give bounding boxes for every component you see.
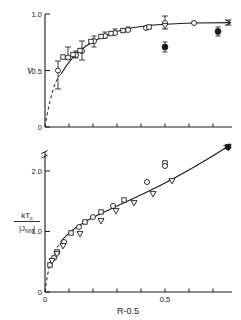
top-open-circle-markers (56, 21, 197, 74)
bottom-y-ticklabel-2.0: 2.0 (32, 167, 42, 176)
top-y-ticklabel-0.5: 0.5 (32, 67, 42, 76)
svg-text:kTc: kTc (21, 211, 33, 221)
top-ylabel-nu: ν (27, 63, 33, 77)
bottom-y-ticklabel-0: 0 (38, 288, 42, 297)
bottom-triangle-markers (49, 179, 175, 264)
top-filled-circle-markers (162, 29, 221, 50)
x-axis-title: R-0.5 (117, 306, 139, 316)
ylabel-denominator-sub: NN (25, 228, 33, 234)
bottom-open-markers (48, 161, 168, 267)
top-open-square-markers (61, 25, 151, 59)
bottom-panel: 2.0 1.0 0 0 0.5 R-0.5 kTc |JNN| (14, 144, 232, 316)
bottom-x-ticklabel-0: 0 (43, 295, 47, 304)
bottom-curve-endpoint-marker (225, 144, 231, 150)
bottom-fit-curve (62, 145, 230, 240)
top-y-ticklabel-1.0: 1.0 (32, 10, 42, 19)
top-dashed-extrapolation (45, 74, 61, 127)
top-panel: 1.0 0.5 0 ν (27, 10, 232, 133)
top-open-triangle-markers (162, 24, 168, 29)
top-y-ticklabel-0: 0 (38, 123, 42, 132)
ylabel-denominator-close: | (33, 224, 35, 233)
ylabel-numerator-sub: c (30, 215, 33, 221)
bottom-x-ticklabel-0.5: 0.5 (160, 295, 170, 304)
two-panel-scientific-plot: 1.0 0.5 0 ν (0, 0, 241, 320)
ylabel-numerator: kT (21, 211, 30, 220)
svg-text:|JNN|: |JNN| (19, 224, 35, 234)
figure-canvas: 1.0 0.5 0 ν (0, 0, 241, 320)
